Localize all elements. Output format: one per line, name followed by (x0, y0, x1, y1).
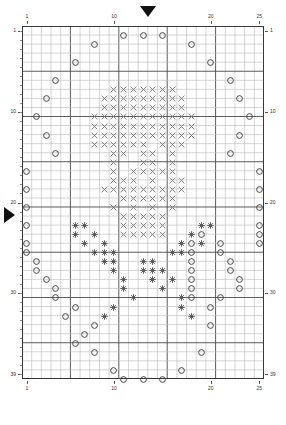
chart-cell-cross[interactable] (129, 189, 138, 198)
chart-cell-circle[interactable] (22, 180, 31, 189)
chart-cell-circle[interactable] (235, 279, 244, 288)
chart-cell-cross[interactable] (158, 216, 167, 225)
chart-cell-cross[interactable] (158, 162, 167, 171)
chart-cell-cross[interactable] (139, 107, 148, 116)
chart-cell-cross[interactable] (129, 80, 138, 89)
chart-cell-cross[interactable] (119, 98, 128, 107)
chart-cell-cross[interactable] (168, 98, 177, 107)
chart-cell-cross[interactable] (177, 171, 186, 180)
chart-cell-cross[interactable] (148, 225, 157, 234)
chart-cell-cross[interactable] (148, 189, 157, 198)
chart-cell-cross[interactable] (158, 107, 167, 116)
chart-cell-circle[interactable] (51, 288, 60, 297)
chart-cell-cross[interactable] (158, 98, 167, 107)
chart-cell-circle[interactable] (255, 180, 264, 189)
chart-cell-circle[interactable] (32, 252, 41, 261)
chart-cell-circle[interactable] (90, 343, 99, 352)
chart-cell-cross[interactable] (139, 225, 148, 234)
chart-cell-cross[interactable] (148, 107, 157, 116)
chart-cell-cross[interactable] (109, 135, 118, 144)
chart-cell-cross[interactable] (187, 107, 196, 116)
chart-cell-cross[interactable] (139, 153, 148, 162)
chart-cell-cross[interactable] (148, 117, 157, 126)
chart-cell-cross[interactable] (129, 198, 138, 207)
chart-cell-cross[interactable] (109, 180, 118, 189)
chart-cell-cross[interactable] (168, 126, 177, 135)
chart-cell-cross[interactable] (109, 107, 118, 116)
chart-cell-cross[interactable] (139, 89, 148, 98)
chart-cell-cross[interactable] (129, 135, 138, 144)
chart-cell-cross[interactable] (100, 126, 109, 135)
chart-cell-circle[interactable] (206, 298, 215, 307)
chart-cell-cross[interactable] (148, 198, 157, 207)
chart-cell-circle[interactable] (139, 370, 148, 379)
chart-cell-cross[interactable] (168, 117, 177, 126)
chart-cell-asterisk[interactable] (148, 270, 157, 279)
chart-cell-cross[interactable] (168, 144, 177, 153)
chart-cell-cross[interactable] (168, 171, 177, 180)
chart-cell-cross[interactable] (119, 107, 128, 116)
chart-cell-cross[interactable] (129, 89, 138, 98)
chart-cell-cross[interactable] (148, 162, 157, 171)
chart-cell-asterisk[interactable] (129, 288, 138, 297)
chart-cell-cross[interactable] (119, 89, 128, 98)
chart-cell-cross[interactable] (139, 80, 148, 89)
chart-cell-cross[interactable] (148, 144, 157, 153)
chart-cell-cross[interactable] (158, 126, 167, 135)
chart-cell-cross[interactable] (177, 117, 186, 126)
chart-cell-circle[interactable] (206, 53, 215, 62)
chart-cell-cross[interactable] (109, 126, 118, 135)
chart-cell-cross[interactable] (168, 180, 177, 189)
chart-cell-circle[interactable] (187, 261, 196, 270)
chart-cell-cross[interactable] (129, 107, 138, 116)
chart-cell-cross[interactable] (139, 189, 148, 198)
chart-cell-cross[interactable] (168, 80, 177, 89)
chart-cell-circle[interactable] (226, 261, 235, 270)
chart-cell-cross[interactable] (100, 98, 109, 107)
chart-cell-cross[interactable] (90, 107, 99, 116)
chart-cell-cross[interactable] (109, 171, 118, 180)
chart-cell-cross[interactable] (177, 180, 186, 189)
chart-cell-cross[interactable] (119, 207, 128, 216)
chart-cell-cross[interactable] (158, 117, 167, 126)
chart-cell-circle[interactable] (90, 316, 99, 325)
chart-cell-circle[interactable] (71, 53, 80, 62)
chart-cell-asterisk[interactable] (139, 252, 148, 261)
chart-cell-asterisk[interactable] (139, 261, 148, 270)
chart-cell-asterisk[interactable] (158, 279, 167, 288)
chart-cell-cross[interactable] (109, 98, 118, 107)
chart-cell-cross[interactable] (119, 171, 128, 180)
chart-cell-asterisk[interactable] (177, 298, 186, 307)
chart-cell-circle[interactable] (197, 343, 206, 352)
chart-cell-circle[interactable] (42, 126, 51, 135)
chart-cell-cross[interactable] (129, 207, 138, 216)
chart-cell-cross[interactable] (119, 126, 128, 135)
chart-cell-cross[interactable] (109, 198, 118, 207)
chart-cell-cross[interactable] (148, 171, 157, 180)
chart-cell-circle[interactable] (158, 370, 167, 379)
chart-cell-asterisk[interactable] (90, 243, 99, 252)
chart-cell-cross[interactable] (100, 180, 109, 189)
chart-cell-asterisk[interactable] (100, 252, 109, 261)
chart-cell-circle[interactable] (187, 270, 196, 279)
chart-cell-circle[interactable] (216, 288, 225, 297)
chart-cell-circle[interactable] (80, 325, 89, 334)
chart-cell-circle[interactable] (255, 216, 264, 225)
chart-cell-asterisk[interactable] (71, 225, 80, 234)
chart-cell-asterisk[interactable] (197, 216, 206, 225)
chart-cell-asterisk[interactable] (197, 234, 206, 243)
chart-cell-circle[interactable] (158, 26, 167, 35)
chart-cell-circle[interactable] (187, 252, 196, 261)
chart-cell-asterisk[interactable] (148, 261, 157, 270)
chart-cell-cross[interactable] (158, 89, 167, 98)
chart-cell-asterisk[interactable] (100, 234, 109, 243)
chart-cell-cross[interactable] (139, 135, 148, 144)
chart-cell-cross[interactable] (177, 107, 186, 116)
chart-cell-cross[interactable] (148, 153, 157, 162)
chart-cell-circle[interactable] (32, 261, 41, 270)
chart-cell-circle[interactable] (187, 279, 196, 288)
chart-cell-asterisk[interactable] (90, 225, 99, 234)
chart-cell-cross[interactable] (100, 107, 109, 116)
chart-cell-cross[interactable] (109, 144, 118, 153)
chart-cell-cross[interactable] (139, 98, 148, 107)
